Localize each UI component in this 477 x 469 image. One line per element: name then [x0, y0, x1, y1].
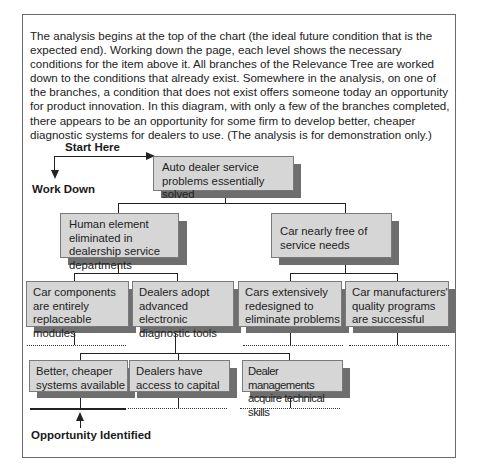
intro-paragraph: The analysis begins at the top of the ch… — [30, 29, 455, 142]
start-arrow-line — [54, 156, 148, 157]
connector — [290, 333, 291, 345]
connector — [118, 265, 119, 273]
arrow-down-icon — [51, 170, 59, 179]
connector — [175, 333, 176, 354]
node-label: Dealers have access to capital — [136, 365, 220, 391]
connector — [290, 273, 291, 281]
connector — [178, 398, 179, 408]
node-cars-redesigned: Cars extensively redesigned to eliminate… — [238, 281, 342, 327]
connector — [74, 333, 75, 345]
node-better-systems: Better, cheaper systems available — [29, 360, 128, 392]
node-label: Better, cheaper systems available — [36, 365, 125, 391]
existing-condition-line — [30, 408, 126, 410]
unfinished-branch-line — [240, 408, 340, 409]
unfinished-branch-line — [243, 345, 343, 346]
opportunity-identified-label: Opportunity Identified — [31, 429, 151, 441]
unfinished-branch-line — [27, 345, 126, 346]
node-quality-programs: Car manufacturers' quality programs are … — [345, 281, 449, 327]
node-human-element: Human element eliminated in dealership s… — [60, 213, 179, 258]
connector — [397, 273, 398, 281]
node-label: Dealers adopt advanced electronic diagno… — [139, 286, 217, 339]
node-access-to-capital: Dealers have access to capital — [129, 360, 230, 392]
connector — [290, 273, 398, 274]
connector — [397, 333, 398, 345]
start-here-label: Start Here — [65, 141, 120, 153]
connector — [74, 273, 75, 281]
unfinished-branch-line — [349, 345, 449, 346]
node-technical-skills: Dealer managements acquire technical ski… — [242, 360, 343, 392]
node-label: Car manufacturers' quality programs are … — [352, 286, 448, 325]
connector — [74, 273, 178, 274]
unfinished-branch-line — [128, 408, 227, 409]
node-diagnostic-tools: Dealers adopt advanced electronic diagno… — [132, 281, 234, 327]
node-label: Car nearly free of service needs — [280, 225, 367, 251]
work-down-label: Work Down — [32, 183, 95, 195]
node-replaceable-modules: Car components are entirely replaceable … — [26, 281, 129, 327]
connector — [80, 398, 81, 408]
connector — [118, 203, 119, 213]
connector — [345, 203, 346, 213]
connector — [118, 203, 346, 204]
connector — [177, 273, 178, 281]
node-label: Cars extensively redesigned to eliminate… — [245, 286, 340, 325]
node-root: Auto dealer service problems essentially… — [153, 156, 294, 191]
opportunity-arrow-line — [80, 420, 81, 428]
connector — [345, 265, 346, 273]
node-car-free-of-service: Car nearly free of service needs — [271, 213, 392, 258]
connector — [80, 353, 290, 354]
connector — [290, 398, 291, 408]
